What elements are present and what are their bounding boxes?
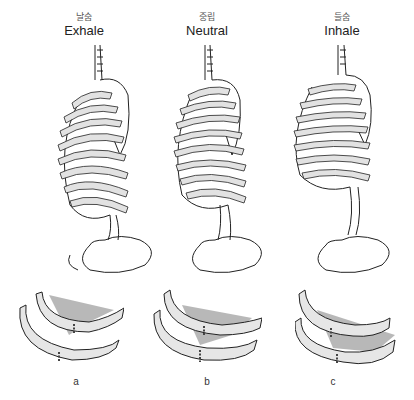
ribcage-side-view-icon [170, 45, 290, 275]
title-korean: 날숨 [29, 12, 139, 23]
panel-label-c: c [323, 376, 343, 387]
title-english: Inhale [287, 23, 397, 39]
title-inhale: 들숨 Inhale [287, 12, 397, 39]
title-english: Exhale [29, 23, 139, 39]
title-exhale: 날숨 Exhale [29, 12, 139, 39]
panel-label-a: a [66, 376, 86, 387]
title-korean: 들숨 [287, 12, 397, 23]
rib-pair-intercostal-detail-icon [14, 280, 124, 365]
title-english: Neutral [152, 23, 262, 39]
ribcage-side-view-icon [290, 45, 414, 275]
ribcage-side-view-icon [50, 45, 170, 275]
title-neutral: 중립 Neutral [152, 12, 262, 39]
rib-pair-intercostal-detail-icon [295, 280, 405, 365]
panel-label-b: b [197, 376, 217, 387]
rib-pair-intercostal-detail-icon [152, 280, 262, 365]
title-korean: 중립 [152, 12, 262, 23]
